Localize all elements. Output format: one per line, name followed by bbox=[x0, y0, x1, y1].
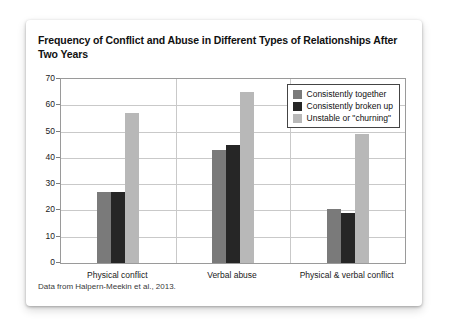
legend-item: Consistently together bbox=[293, 89, 393, 99]
y-axis-tick-mark bbox=[56, 104, 60, 105]
y-axis-tick-label: 40 bbox=[46, 152, 55, 162]
y-axis-tick-label: 60 bbox=[46, 99, 55, 109]
chart-plot-wrapper: Consistently togetherConsistently broken… bbox=[60, 78, 406, 264]
legend-label: Consistently together bbox=[307, 89, 387, 99]
chart-bar bbox=[341, 213, 355, 263]
chart-legend: Consistently togetherConsistently broken… bbox=[287, 84, 400, 128]
y-axis-tick-label: 0 bbox=[50, 257, 55, 267]
bar-group bbox=[176, 79, 291, 263]
figure-card: Frequency of Conflict and Abuse in Diffe… bbox=[26, 20, 422, 306]
chart-bar bbox=[226, 145, 240, 263]
y-axis-tick-mark bbox=[56, 183, 60, 184]
legend-label: Unstable or "churning" bbox=[307, 113, 391, 123]
y-axis-tick-mark bbox=[56, 209, 60, 210]
chart-bar bbox=[125, 113, 139, 263]
y-axis-tick-mark bbox=[56, 236, 60, 237]
y-axis-tick-label: 70 bbox=[46, 73, 55, 83]
source-note: Data from Halpern-Meekin et al., 2013. bbox=[38, 282, 176, 291]
legend-swatch-icon bbox=[293, 90, 302, 99]
y-axis-tick-label: 50 bbox=[46, 126, 55, 136]
y-axis-tick-label: 30 bbox=[46, 178, 55, 188]
legend-swatch-icon bbox=[293, 114, 302, 123]
x-axis-tick-label: Physical & verbal conflict bbox=[300, 270, 394, 280]
y-axis-tick-mark bbox=[56, 157, 60, 158]
chart-bar bbox=[111, 192, 125, 263]
page-title: Frequency of Conflict and Abuse in Diffe… bbox=[38, 33, 410, 61]
chart-bar bbox=[97, 192, 111, 263]
y-axis-tick-mark bbox=[56, 131, 60, 132]
chart-bar bbox=[327, 209, 341, 263]
y-axis-tick-label: 20 bbox=[46, 204, 55, 214]
chart-bar bbox=[240, 92, 254, 263]
chart-bar bbox=[212, 150, 226, 263]
y-axis-tick-label: 10 bbox=[46, 231, 55, 241]
legend-item: Consistently broken up bbox=[293, 101, 393, 111]
y-axis-tick-mark bbox=[56, 262, 60, 263]
legend-label: Consistently broken up bbox=[307, 101, 393, 111]
x-axis-tick-label: Verbal abuse bbox=[207, 270, 257, 280]
legend-item: Unstable or "churning" bbox=[293, 113, 393, 123]
bar-group bbox=[61, 79, 176, 263]
chart-bar bbox=[355, 134, 369, 263]
y-axis-tick-mark bbox=[56, 78, 60, 79]
legend-swatch-icon bbox=[293, 102, 302, 111]
x-axis-tick-label: Physical conflict bbox=[87, 270, 147, 280]
